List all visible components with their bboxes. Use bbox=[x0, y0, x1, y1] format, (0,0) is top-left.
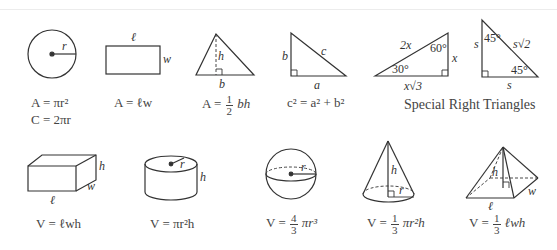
pyramid-width-label: w bbox=[528, 184, 536, 198]
pythagorean-formula: c² = a² + b² bbox=[287, 95, 344, 111]
angle-60-label: 60° bbox=[430, 41, 447, 55]
triangle-30-60-90-figure: 2x 60° x 30° x√3 bbox=[375, 33, 458, 93]
leg-s-horizontal-label: s bbox=[507, 78, 512, 92]
box-volume-formula: V = ℓwh bbox=[36, 216, 81, 232]
cone-radius-label: r bbox=[399, 183, 404, 197]
hypotenuse-2x-label: 2x bbox=[400, 38, 412, 52]
leg-a-label: a bbox=[314, 78, 320, 92]
box-height-label: h bbox=[99, 159, 105, 173]
rectangle-width-label: w bbox=[163, 52, 171, 66]
cylinder-figure: r h bbox=[145, 156, 206, 200]
box-figure: h w ℓ bbox=[28, 155, 105, 207]
sphere-volume-formula: V = 43 πr³ bbox=[266, 213, 317, 236]
special-right-triangles-caption: Special Right Triangles bbox=[404, 97, 535, 113]
box-width-label: w bbox=[87, 179, 95, 193]
formula-prefix: A = bbox=[202, 96, 221, 111]
formula-suffix: bh bbox=[237, 96, 250, 111]
leg-s-vertical-label: s bbox=[474, 37, 479, 51]
angle-45-bottom-label: 45° bbox=[511, 63, 528, 77]
circle-figure: r bbox=[28, 30, 76, 78]
fraction: 13 bbox=[391, 213, 399, 236]
right-triangle-figure: b c a bbox=[282, 33, 346, 92]
hypotenuse-c-label: c bbox=[321, 44, 327, 58]
triangle-figure: h b bbox=[196, 34, 254, 91]
angle-30-label: 30° bbox=[392, 62, 409, 76]
rectangle-length-label: ℓ bbox=[131, 30, 136, 44]
pyramid-figure: h w ℓ bbox=[466, 147, 538, 213]
fraction: 43 bbox=[290, 213, 298, 236]
pyramid-height-label: h bbox=[492, 165, 498, 179]
triangle-height-label: h bbox=[218, 49, 224, 63]
pyramid-volume-formula: V = 13 ℓwh bbox=[469, 213, 525, 236]
sphere-radius-label: r bbox=[301, 160, 306, 174]
cone-volume-formula: V = 13 πr²h bbox=[367, 213, 425, 236]
circle-area-formula: A = πr² bbox=[31, 95, 68, 111]
cylinder-volume-formula: V = πr²h bbox=[150, 216, 194, 232]
circle-radius-label: r bbox=[62, 39, 67, 53]
pyramid-length-label: ℓ bbox=[488, 199, 493, 213]
hypotenuse-s-root2-label: s√2 bbox=[513, 37, 530, 51]
circle-circumference-formula: C = 2πr bbox=[31, 112, 71, 128]
rectangle-area-formula: A = ℓw bbox=[114, 95, 152, 111]
fraction: 13 bbox=[493, 213, 501, 236]
fraction: 12 bbox=[226, 94, 234, 117]
leg-b-label: b bbox=[282, 49, 288, 63]
sphere-figure: r bbox=[266, 149, 316, 199]
long-leg-label: x√3 bbox=[403, 79, 422, 93]
triangle-45-45-90-figure: s 45° s√2 45° s bbox=[474, 20, 538, 92]
box-length-label: ℓ bbox=[50, 193, 55, 207]
cylinder-radius-label: r bbox=[180, 157, 185, 171]
short-leg-x-label: x bbox=[451, 51, 458, 65]
triangle-area-formula: A = 12 bh bbox=[202, 94, 250, 117]
angle-45-top-label: 45° bbox=[484, 31, 501, 45]
cone-figure: h r bbox=[363, 141, 414, 202]
cone-height-label: h bbox=[391, 163, 397, 177]
cylinder-height-label: h bbox=[200, 170, 206, 184]
rectangle-figure: ℓ w bbox=[106, 30, 171, 74]
triangle-base-label: b bbox=[219, 77, 225, 91]
